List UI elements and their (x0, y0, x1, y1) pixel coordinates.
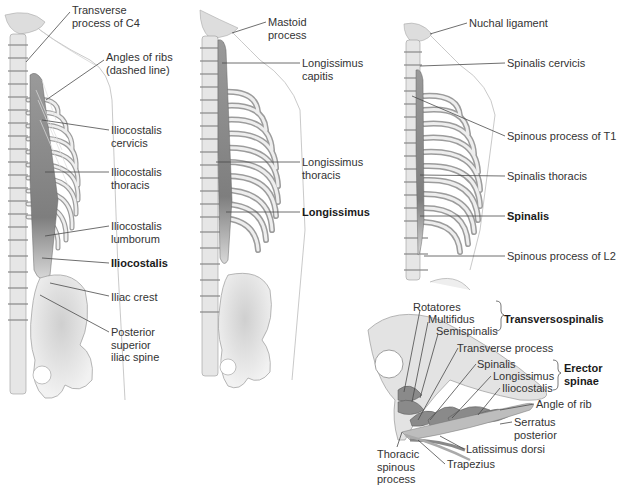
label-longissimus: Longissimus (302, 206, 370, 219)
label-transverse-process: Transverse process (457, 342, 553, 355)
label-spinalis: Spinalis (477, 358, 516, 371)
label-spinous-process-of-t1: Spinous process of T1 (507, 130, 616, 143)
label-spinalis-thoracis: Spinalis thoracis (507, 170, 587, 183)
label-iliocostalis: Iliocostalis (502, 382, 553, 395)
label-longissimus-thoracis: Longissimus thoracis (302, 156, 363, 181)
label-iliac-crest: Iliac crest (111, 291, 157, 304)
label-erector-spinae: Erector spinae (564, 362, 603, 387)
panel-longissimus (200, 10, 305, 388)
label-longissimus: Longissimus (493, 370, 554, 383)
label-transversospinalis: Transversospinalis (504, 313, 604, 326)
label-rotatores: Rotatores (413, 301, 461, 314)
label-iliocostalis: Iliocostalis (111, 257, 168, 270)
label-spinalis: Spinalis (507, 210, 549, 223)
label-mastoid-process: Mastoid process (268, 16, 307, 41)
label-spinalis-cervicis: Spinalis cervicis (507, 57, 585, 70)
label-iliocostalis-cervicis: Iliocostalis cervicis (111, 124, 162, 149)
label-thoracic-spinous-process: Thoracic spinous process (377, 448, 419, 486)
label-angle-of-rib: Angle of rib (536, 398, 592, 411)
label-angles-of-ribs-dashed-line: Angles of ribs (dashed line) (106, 51, 173, 76)
label-iliocostalis-lumborum: Iliocostalis lumborum (111, 220, 162, 245)
label-iliocostalis-thoracis: Iliocostalis thoracis (111, 166, 162, 191)
label-spinous-process-of-l2: Spinous process of L2 (507, 250, 616, 263)
panel-spinalis (404, 23, 505, 290)
label-trapezius: Trapezius (447, 458, 495, 471)
label-multifidus: Multifidus (428, 313, 474, 326)
label-transverse-process-of-c4: Transverse process of C4 (72, 4, 140, 29)
label-longissimus-capitis: Longissimus capitis (302, 57, 363, 82)
label-semispinalis: Semispinalis (436, 325, 498, 338)
label-serratus-posterior: Serratus posterior (514, 416, 557, 441)
label-nuchal-ligament: Nuchal ligament (469, 17, 548, 30)
label-latissimus-dorsi: Latissimus dorsi (466, 443, 545, 456)
label-posterior-superior-iliac-spine: Posterior superior iliac spine (111, 326, 159, 364)
